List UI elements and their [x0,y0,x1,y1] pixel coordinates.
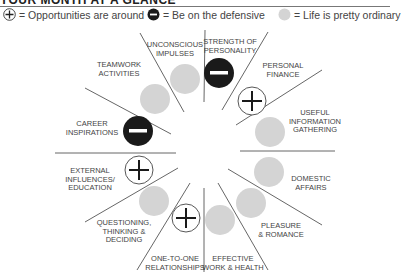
minus-circle-icon [204,58,234,88]
sector-label-strength-of-personality: STRENGTH OFPERSONALITY [203,38,257,55]
plus-circle-icon [125,156,153,184]
minus-circle-icon [123,116,153,146]
plus-circle-icon [238,87,266,115]
sector-label-external-influences-education: EXTERNALINFLUENCES/EDUCATION [65,167,115,193]
grey-circle-icon [140,84,170,114]
sector-label-pleasure-romance: PLEASURE& ROMANCE [258,222,303,239]
grey-circle-icon [255,117,285,147]
sector-label-unconscious-impulses: UNCONSCIOUSIMPULSES [147,41,203,58]
grey-circle-icon [254,157,284,187]
sector-label-useful-information-gathering: USEFULINFORMATIONGATHERING [289,109,341,135]
sector-label-career-inspirations: CAREERINSPIRATIONS [66,120,118,137]
sector-label-questioning-thinking-deciding: QUESTIONING,THINKING &DECIDING [97,219,152,245]
grey-circle-icon [205,205,235,235]
sector-label-personal-finance: PERSONALFINANCE [263,62,304,79]
grey-circle-icon [170,64,200,94]
grey-circle-icon [139,186,169,216]
grey-circle-icon [236,188,266,218]
plus-circle-icon [172,204,200,232]
sector-label-domestic-affairs: DOMESTICAFFAIRS [291,175,331,192]
sector-label-one-to-one-relationships: ONE-TO-ONERELATIONSHIPS [145,255,204,272]
sector-label-effective-work-health: EFFECTIVEWORK & HEALTH [202,255,264,272]
sector-label-teamwork-activities: TEAMWORKACTIVITIES [97,61,141,78]
